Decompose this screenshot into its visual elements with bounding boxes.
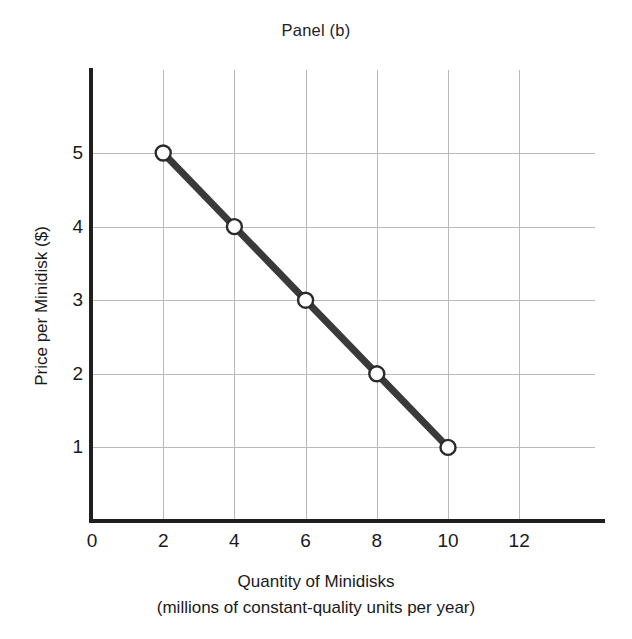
gridline-vertical [163,70,164,521]
gridline-horizontal [92,374,595,375]
x-tick-label: 10 [428,530,468,552]
y-tick-label: 2 [53,363,83,385]
x-tick-label: 8 [357,530,397,552]
gridline-horizontal [92,227,595,228]
x-axis-title-line1: Quantity of Minidisks [0,569,632,595]
x-axis-title: Quantity of Minidisks (millions of const… [0,569,632,621]
x-tick-label: 6 [286,530,326,552]
gridline-vertical [448,70,449,521]
chart-figure: Panel (b) 12345 024681012 Price per Mini… [0,0,632,639]
y-axis-line [89,68,93,523]
gridline-horizontal [92,300,595,301]
y-axis-title: Price per Minidisk ($) [32,156,52,456]
plot-area [92,70,605,521]
y-tick-label: 5 [53,142,83,164]
x-axis-line [89,519,605,523]
y-tick-label: 3 [53,289,83,311]
x-tick-label: 0 [72,530,112,552]
x-tick-label: 12 [499,530,539,552]
gridline-vertical [377,70,378,521]
gridline-vertical [306,70,307,521]
gridline-vertical [519,70,520,521]
x-tick-label: 4 [214,530,254,552]
gridline-horizontal [92,447,595,448]
gridline-horizontal [92,153,595,154]
y-tick-label: 4 [53,216,83,238]
x-axis-title-line2: (millions of constant-quality units per … [0,595,632,621]
gridline-vertical [234,70,235,521]
chart-title: Panel (b) [0,21,632,40]
x-tick-label: 2 [143,530,183,552]
y-tick-label: 1 [53,436,83,458]
